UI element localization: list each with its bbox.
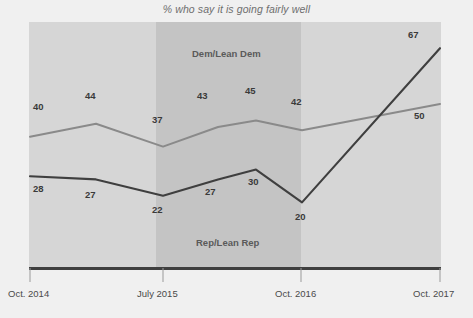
chart-container: % who say it is going fairly well Dem/Le… (0, 0, 473, 318)
x-axis-label-1: July 2015 (137, 288, 178, 299)
x-axis-label-2: Oct. 2016 (275, 288, 316, 299)
data-label-dem-4: 45 (245, 85, 256, 96)
series-label-rep: Rep/Lean Rep (196, 237, 259, 248)
x-axis-label-0: Oct. 2014 (8, 288, 49, 299)
background-band-left (29, 22, 156, 268)
data-label-rep-6: 67 (408, 29, 419, 40)
data-label-dem-6: 50 (414, 110, 425, 121)
x-axis-label-3: Oct. 2017 (413, 288, 454, 299)
data-label-dem-3: 43 (197, 90, 208, 101)
background-band-right (301, 22, 441, 268)
data-label-rep-2: 22 (152, 204, 163, 215)
series-label-dem: Dem/Lean Dem (192, 48, 261, 59)
data-label-rep-3: 27 (205, 186, 216, 197)
data-label-dem-0: 40 (33, 101, 44, 112)
data-label-dem-5: 42 (291, 96, 302, 107)
data-label-dem-2: 37 (152, 114, 163, 125)
data-label-rep-4: 30 (248, 176, 259, 187)
data-label-dem-1: 44 (85, 90, 96, 101)
data-label-rep-1: 27 (85, 189, 96, 200)
data-label-rep-5: 20 (295, 211, 306, 222)
data-label-rep-0: 28 (33, 183, 44, 194)
